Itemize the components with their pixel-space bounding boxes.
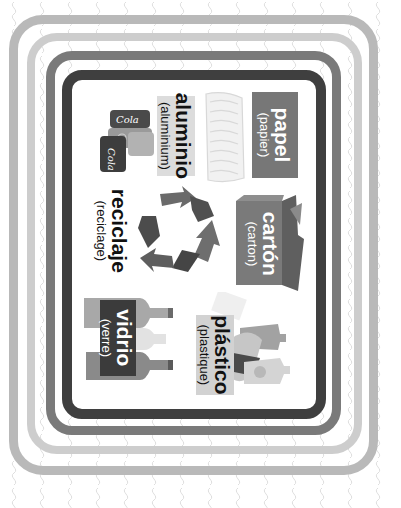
label-aluminio-sub: (aluminium) — [158, 93, 172, 179]
paper-stack-icon — [198, 88, 250, 188]
can-text-2: Cola — [106, 148, 117, 171]
label-carton: cartón (carton) — [240, 206, 286, 282]
label-plastico-sub: (plastique) — [197, 315, 211, 394]
label-carton-sub: (carton) — [245, 212, 259, 276]
label-papel-main: papel — [271, 108, 293, 163]
label-vidrio-sub: (verre) — [100, 309, 114, 366]
label-papel-sub: (papier) — [257, 108, 271, 163]
label-papel: papel (papier) — [252, 92, 298, 178]
can-text: Cola — [116, 114, 139, 125]
soda-cans-icon: Cola Cola — [98, 106, 156, 172]
label-aluminio-main: aluminio — [172, 93, 194, 179]
label-aluminio: aluminio (aluminium) — [157, 96, 195, 176]
label-reciclaje-main: reciclaje — [108, 189, 130, 273]
label-reciclaje-sub: (reciclage) — [94, 189, 108, 273]
label-carton-main: cartón — [259, 212, 281, 276]
label-reciclaje: reciclaje (reciclage) — [92, 185, 132, 277]
label-vidrio-main: vidrio — [114, 309, 136, 366]
label-plastico: plástico (plastique) — [196, 315, 234, 395]
label-plastico-main: plástico — [211, 315, 233, 394]
recycle-arrows-icon — [132, 186, 224, 278]
label-vidrio: vidrio (verre) — [100, 300, 136, 376]
